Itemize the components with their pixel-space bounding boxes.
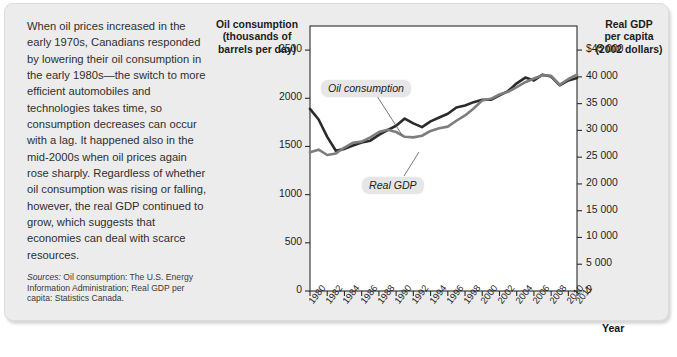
- right-tick-25000: 25 000: [586, 150, 646, 161]
- left-tick-1000: 1000: [250, 188, 302, 199]
- series-label-oil-consumption: Oil consumption: [321, 80, 411, 97]
- right-tick-45000: $45 000: [586, 43, 646, 54]
- right-tick-10000: 10 000: [586, 230, 646, 241]
- line-chart: Oil consumption(thousands ofbarrels per …: [5, 4, 670, 322]
- figure-panel: When oil prices increased in the early 1…: [4, 3, 669, 321]
- left-tick-0: 0: [250, 284, 302, 295]
- x-axis-title: Year: [602, 322, 624, 334]
- right-tick-15000: 15 000: [586, 204, 646, 215]
- series-label-real-gdp: Real GDP: [362, 177, 424, 194]
- left-tick-2000: 2000: [250, 91, 302, 102]
- right-tick-5000: 5 000: [586, 257, 646, 268]
- right-tick-35000: 35 000: [586, 97, 646, 108]
- left-tick-1500: 1500: [250, 139, 302, 150]
- left-tick-2500: 2500: [250, 43, 302, 54]
- plot-area: [5, 4, 670, 322]
- right-tick-0: 0: [586, 284, 646, 295]
- left-tick-500: 500: [250, 236, 302, 247]
- right-tick-40000: 40 000: [586, 70, 646, 81]
- right-tick-20000: 20 000: [586, 177, 646, 188]
- right-tick-30000: 30 000: [586, 123, 646, 134]
